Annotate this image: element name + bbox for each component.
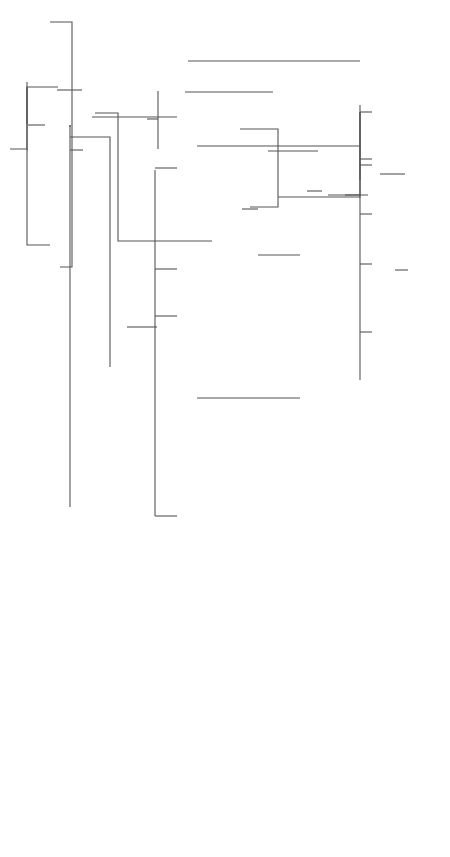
connector [240,129,278,207]
connector [70,137,110,367]
connector [27,87,50,245]
connector [50,22,72,267]
connector [10,87,58,149]
family-tree-diagram [0,0,450,857]
connector [278,112,360,197]
connector [95,113,212,241]
tree-connectors [0,0,450,857]
